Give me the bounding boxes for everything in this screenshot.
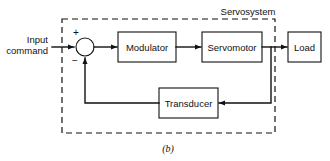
wire-transducer-to-sum bbox=[85, 58, 159, 103]
plus-sign-label: + bbox=[73, 27, 79, 38]
figure-container: Servosystem Input command + − Modulator … bbox=[0, 0, 330, 161]
block-modulator-label: Modulator bbox=[126, 42, 168, 53]
block-servomotor-label: Servomotor bbox=[207, 42, 256, 53]
block-load-label: Load bbox=[294, 42, 315, 53]
block-diagram: Servosystem Input command + − Modulator … bbox=[0, 0, 330, 161]
servosystem-label: Servosystem bbox=[221, 6, 276, 17]
summing-junction bbox=[76, 38, 94, 56]
input-command-label-line2: command bbox=[6, 45, 48, 56]
minus-sign-label: − bbox=[72, 55, 78, 66]
input-command-label: Input bbox=[27, 34, 48, 45]
figure-caption: (b) bbox=[162, 143, 174, 155]
block-transducer-label: Transducer bbox=[165, 98, 213, 109]
